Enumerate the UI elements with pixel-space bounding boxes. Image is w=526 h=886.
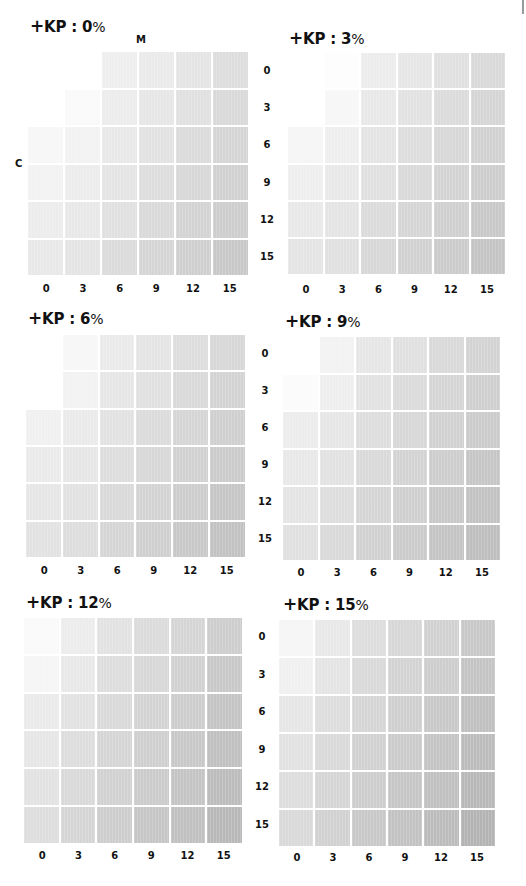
y-tick-label: 0 — [264, 65, 271, 76]
heatmap-cell — [388, 734, 422, 770]
heatmap-cell — [63, 335, 98, 370]
x-tick-label: 0 — [288, 284, 324, 295]
heatmap-cell — [26, 447, 61, 482]
heatmap-cell — [279, 772, 313, 808]
plus-sign: + — [283, 594, 297, 614]
plus-sign: + — [28, 308, 42, 328]
percent-sign: % — [351, 31, 364, 47]
heatmap-cell — [173, 447, 208, 482]
x-tick-label: 3 — [324, 284, 360, 295]
heatmap-cell — [173, 335, 208, 370]
heatmap-cell — [171, 731, 206, 767]
heatmap-cell — [28, 52, 63, 88]
plus-sign: + — [289, 28, 303, 48]
heatmap-cell — [28, 240, 63, 276]
heatmap-cell — [102, 90, 137, 126]
heatmap-cell — [134, 807, 169, 843]
heatmap-cell — [139, 240, 174, 276]
title-text: KP : 15 — [297, 596, 356, 614]
heatmap-cell — [63, 372, 98, 407]
heatmap-cell — [213, 52, 248, 88]
heatmap-cell — [279, 810, 313, 846]
heatmap-cell — [171, 694, 206, 730]
heatmap-cell — [434, 202, 469, 237]
heatmap-cell — [283, 375, 318, 411]
heatmap-cell — [100, 335, 135, 370]
heatmap-cell — [361, 202, 396, 237]
heatmap-cell — [288, 239, 323, 274]
heatmap-cell — [388, 810, 422, 846]
heatmap-cell — [398, 165, 433, 200]
heatmap-cell — [356, 375, 391, 411]
heatmap-cell — [173, 410, 208, 445]
heatmap-cell — [102, 165, 137, 201]
heatmap-cell — [461, 810, 495, 846]
x-tick-label: 0 — [24, 850, 60, 861]
percent-sign: % — [90, 311, 103, 327]
title-text: KP : 12 — [40, 594, 99, 612]
panel-title-kp-9: +KP : 9% — [285, 311, 360, 331]
heatmap-cell — [134, 731, 169, 767]
heatmap-cell — [471, 202, 506, 237]
heatmap-cell — [325, 165, 360, 200]
x-tick-label: 9 — [136, 565, 173, 576]
heatmap-cell — [100, 372, 135, 407]
heatmap-cell — [61, 694, 96, 730]
heatmap-cell — [466, 487, 501, 523]
heatmap-grid-kp-3 — [288, 53, 505, 274]
heatmap-cell — [320, 487, 355, 523]
heatmap-cell — [315, 810, 349, 846]
page-edge-mark — [522, 0, 524, 14]
heatmap-cell — [97, 807, 132, 843]
heatmap-cell — [210, 410, 245, 445]
heatmap-cell — [288, 202, 323, 237]
heatmap-cell — [279, 696, 313, 732]
heatmap-cell — [102, 202, 137, 238]
heatmap-cell — [134, 656, 169, 692]
heatmap-cell — [325, 53, 360, 88]
heatmap-cell — [388, 772, 422, 808]
heatmap-cell — [424, 620, 458, 656]
heatmap-cell — [139, 202, 174, 238]
heatmap-cell — [24, 769, 59, 805]
heatmap-cell — [398, 202, 433, 237]
heatmap-cell — [134, 769, 169, 805]
heatmap-cell — [26, 335, 61, 370]
heatmap-cell — [434, 165, 469, 200]
heatmap-cell — [320, 375, 355, 411]
heatmap-cell — [213, 165, 248, 201]
heatmap-cell — [320, 412, 355, 448]
heatmap-cell — [315, 658, 349, 694]
heatmap-cell — [393, 375, 428, 411]
heatmap-cell — [429, 525, 464, 561]
heatmap-cell — [461, 658, 495, 694]
y-tick-label: 6 — [264, 139, 271, 150]
heatmap-cell — [136, 372, 171, 407]
x-tick-label: 12 — [169, 850, 205, 861]
x-tick-label: 9 — [392, 567, 428, 578]
heatmap-cell — [28, 165, 63, 201]
heatmap-cell — [288, 165, 323, 200]
y-tick-label: 6 — [259, 706, 266, 717]
x-tick-label: 6 — [360, 284, 396, 295]
heatmap-cell — [466, 525, 501, 561]
heatmap-cell — [100, 522, 135, 557]
panel-title-kp-3: +KP : 3% — [289, 28, 364, 48]
x-tick-label: 0 — [279, 852, 315, 863]
heatmap-cell — [356, 450, 391, 486]
heatmap-cell — [136, 410, 171, 445]
heatmap-cell — [352, 810, 386, 846]
x-tick-label: 6 — [99, 565, 136, 576]
x-tick-label: 15 — [209, 565, 246, 576]
heatmap-cell — [288, 90, 323, 125]
heatmap-cell — [173, 522, 208, 557]
heatmap-cell — [63, 410, 98, 445]
heatmap-cell — [97, 656, 132, 692]
col-labels-m: 03691215 — [279, 852, 495, 863]
heatmap-cell — [207, 694, 242, 730]
x-tick-label: 3 — [65, 283, 102, 294]
col-labels-m: 03691215 — [288, 284, 505, 295]
percent-sign: % — [92, 19, 105, 35]
y-tick-label: 15 — [255, 819, 269, 830]
heatmap-cell — [288, 53, 323, 88]
